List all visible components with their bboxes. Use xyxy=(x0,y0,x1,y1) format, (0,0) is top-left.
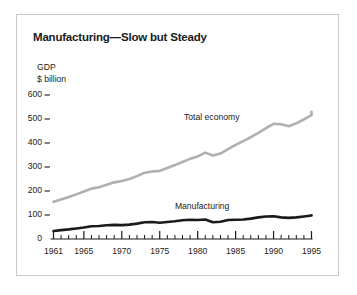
series-annotation-total-economy: Total economy xyxy=(184,112,239,122)
series-annotation-manufacturing: Manufacturing xyxy=(175,201,229,211)
chart-figure: Manufacturing—Slow but Steady GDP $ bill… xyxy=(0,0,357,295)
y-tick-label: 500 xyxy=(12,113,42,123)
x-tick-label: 1965 xyxy=(64,246,104,256)
y-axis-title-line-2: $ billion xyxy=(37,74,66,86)
y-tick-label: 100 xyxy=(12,209,42,219)
y-tick-label: 0 xyxy=(12,233,42,243)
y-tick-label: 200 xyxy=(12,185,42,195)
y-tick-label: 400 xyxy=(12,137,42,147)
x-tick-label: 1995 xyxy=(292,246,332,256)
y-tick-label: 300 xyxy=(12,161,42,171)
chart-title: Manufacturing—Slow but Steady xyxy=(33,31,207,43)
y-axis-title: GDP $ billion xyxy=(37,62,66,85)
x-tick-label: 1970 xyxy=(102,246,142,256)
x-tick-label: 1980 xyxy=(178,246,218,256)
x-tick-label: 1985 xyxy=(216,246,256,256)
x-tick-label: 1975 xyxy=(140,246,180,256)
y-axis-title-line-1: GDP xyxy=(37,62,66,74)
y-tick-label: 600 xyxy=(12,89,42,99)
x-tick-label: 1990 xyxy=(254,246,294,256)
figure-border xyxy=(16,14,339,276)
